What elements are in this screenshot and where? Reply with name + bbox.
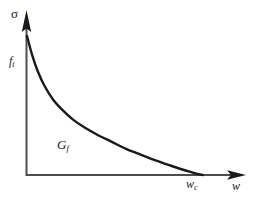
fracture-energy-label-gf: Gf	[57, 138, 69, 153]
y-axis-title-sigma: σ	[11, 7, 18, 20]
figure-canvas	[0, 0, 261, 198]
ft-subscript: t	[12, 60, 14, 69]
wc-base: w	[186, 177, 194, 191]
critical-opening-label-wc: wc	[186, 178, 198, 192]
x-axis-title-w: w	[232, 180, 240, 192]
softening-curve	[27, 36, 203, 175]
peak-stress-label-ft: ft	[9, 55, 15, 69]
wc-subscript: c	[194, 183, 198, 192]
gf-subscript: f	[66, 143, 68, 153]
gf-base: G	[57, 137, 66, 152]
stress-crack-opening-figure: σ ft Gf wc w	[0, 0, 261, 198]
